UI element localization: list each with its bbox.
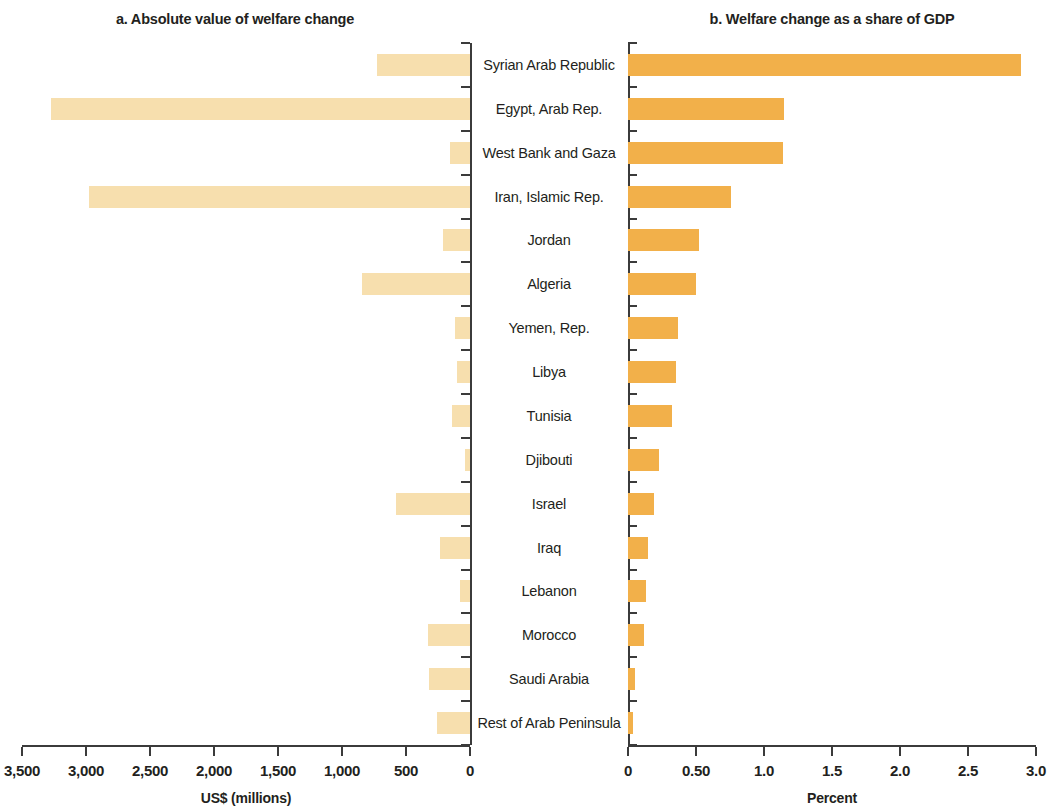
category-label: Djibouti bbox=[476, 452, 622, 468]
category-label: Jordan bbox=[476, 232, 622, 248]
bar-welfare-share-of-gdp[interactable] bbox=[628, 98, 784, 120]
value-axis-tick bbox=[149, 747, 151, 756]
value-axis-tick bbox=[899, 747, 901, 756]
value-axis-tick bbox=[85, 747, 87, 756]
bar-absolute-welfare-change[interactable] bbox=[89, 186, 470, 208]
value-axis-tick bbox=[405, 747, 407, 756]
category-label: Saudi Arabia bbox=[476, 671, 622, 687]
bar-welfare-share-of-gdp[interactable] bbox=[628, 142, 783, 164]
chart-row: West Bank and Gaza bbox=[0, 131, 1055, 175]
panel-a-axis-caption: US$ (millions) bbox=[201, 790, 292, 806]
category-label: Iran, Islamic Rep. bbox=[476, 189, 622, 205]
bar-absolute-welfare-change[interactable] bbox=[450, 142, 470, 164]
value-axis-tick-label-share: 1.5 bbox=[822, 762, 842, 779]
bar-absolute-welfare-change[interactable] bbox=[465, 449, 470, 471]
bar-welfare-share-of-gdp[interactable] bbox=[628, 493, 654, 515]
panel-b-axis-caption: Percent bbox=[807, 790, 857, 806]
bar-welfare-share-of-gdp[interactable] bbox=[628, 668, 635, 690]
bar-absolute-welfare-change[interactable] bbox=[51, 98, 470, 120]
chart-row: Yemen, Rep. bbox=[0, 306, 1055, 350]
category-label: Rest of Arab Peninsula bbox=[476, 715, 622, 731]
bar-absolute-welfare-change[interactable] bbox=[455, 317, 470, 339]
bar-welfare-share-of-gdp[interactable] bbox=[628, 449, 659, 471]
bar-welfare-share-of-gdp[interactable] bbox=[628, 624, 644, 646]
value-axis-tick-label-share: 3.0 bbox=[1026, 762, 1046, 779]
bar-welfare-share-of-gdp[interactable] bbox=[628, 405, 672, 427]
bar-welfare-share-of-gdp[interactable] bbox=[628, 317, 678, 339]
chart-row: Djibouti bbox=[0, 438, 1055, 482]
bar-welfare-share-of-gdp[interactable] bbox=[628, 229, 699, 251]
value-axis-tick-label-absolute: 2,500 bbox=[132, 762, 168, 779]
value-axis-tick bbox=[341, 747, 343, 756]
category-label: Iraq bbox=[476, 540, 622, 556]
value-axis-tick bbox=[21, 747, 23, 756]
chart-row: Tunisia bbox=[0, 394, 1055, 438]
category-label: Israel bbox=[476, 496, 622, 512]
category-label: Tunisia bbox=[476, 408, 622, 424]
chart-row: Jordan bbox=[0, 219, 1055, 263]
value-axis-tick-label-share: 2.0 bbox=[890, 762, 910, 779]
chart-plot-area: Syrian Arab RepublicEgypt, Arab Rep.West… bbox=[0, 0, 1055, 810]
bar-welfare-share-of-gdp[interactable] bbox=[628, 54, 1021, 76]
bar-absolute-welfare-change[interactable] bbox=[396, 493, 470, 515]
value-axis-tick-label-absolute: 2,000 bbox=[196, 762, 232, 779]
chart-row: Iraq bbox=[0, 526, 1055, 570]
value-axis-tick bbox=[831, 747, 833, 756]
chart-row: Saudi Arabia bbox=[0, 657, 1055, 701]
value-axis-tick bbox=[763, 747, 765, 756]
category-label: Egypt, Arab Rep. bbox=[476, 101, 622, 117]
category-label: Syrian Arab Republic bbox=[476, 57, 622, 73]
value-axis-tick bbox=[277, 747, 279, 756]
category-label: Libya bbox=[476, 364, 622, 380]
value-axis-tick bbox=[213, 747, 215, 756]
bar-welfare-share-of-gdp[interactable] bbox=[628, 712, 633, 734]
category-label: Yemen, Rep. bbox=[476, 320, 622, 336]
category-label: Algeria bbox=[476, 276, 622, 292]
value-axis-tick bbox=[1035, 747, 1037, 756]
value-axis-tick-label-absolute: 1,000 bbox=[324, 762, 360, 779]
bar-absolute-welfare-change[interactable] bbox=[440, 537, 470, 559]
bar-absolute-welfare-change[interactable] bbox=[443, 229, 470, 251]
bar-absolute-welfare-change[interactable] bbox=[429, 668, 470, 690]
chart-row: Israel bbox=[0, 482, 1055, 526]
category-label: Morocco bbox=[476, 627, 622, 643]
value-axis-tick bbox=[695, 747, 697, 756]
chart-row: Syrian Arab Republic bbox=[0, 43, 1055, 87]
value-axis-tick-label-absolute: 3,500 bbox=[4, 762, 40, 779]
value-axis-tick-label-absolute: 500 bbox=[394, 762, 418, 779]
value-axis-tick-label-absolute: 3,000 bbox=[68, 762, 104, 779]
bar-welfare-share-of-gdp[interactable] bbox=[628, 580, 646, 602]
chart-row: Morocco bbox=[0, 613, 1055, 657]
value-axis-tick-label-share: 0.50 bbox=[682, 762, 710, 779]
bar-welfare-share-of-gdp[interactable] bbox=[628, 186, 731, 208]
bar-absolute-welfare-change[interactable] bbox=[428, 624, 470, 646]
bar-absolute-welfare-change[interactable] bbox=[452, 405, 470, 427]
value-axis-tick bbox=[967, 747, 969, 756]
bar-absolute-welfare-change[interactable] bbox=[457, 361, 470, 383]
chart-row: Rest of Arab Peninsula bbox=[0, 701, 1055, 745]
chart-row: Egypt, Arab Rep. bbox=[0, 87, 1055, 131]
bar-absolute-welfare-change[interactable] bbox=[362, 273, 470, 295]
category-label: West Bank and Gaza bbox=[476, 145, 622, 161]
bar-absolute-welfare-change[interactable] bbox=[460, 580, 470, 602]
bar-welfare-share-of-gdp[interactable] bbox=[628, 361, 676, 383]
chart-row: Iran, Islamic Rep. bbox=[0, 175, 1055, 219]
value-axis-tick-label-absolute: 0 bbox=[466, 762, 474, 779]
chart-row: Lebanon bbox=[0, 570, 1055, 614]
bar-absolute-welfare-change[interactable] bbox=[377, 54, 470, 76]
category-label: Lebanon bbox=[476, 583, 622, 599]
value-axis-tick-label-share: 0 bbox=[624, 762, 632, 779]
value-axis-tick-label-share: 2.5 bbox=[958, 762, 978, 779]
value-axis-tick-label-absolute: 1,500 bbox=[260, 762, 296, 779]
chart-row: Libya bbox=[0, 350, 1055, 394]
value-axis-tick bbox=[469, 747, 471, 756]
value-axis-tick bbox=[627, 747, 629, 756]
chart-row: Algeria bbox=[0, 262, 1055, 306]
value-axis-tick-label-share: 1.0 bbox=[754, 762, 774, 779]
bar-welfare-share-of-gdp[interactable] bbox=[628, 537, 648, 559]
value-axis-line bbox=[22, 745, 470, 747]
bar-welfare-share-of-gdp[interactable] bbox=[628, 273, 696, 295]
bar-absolute-welfare-change[interactable] bbox=[437, 712, 470, 734]
